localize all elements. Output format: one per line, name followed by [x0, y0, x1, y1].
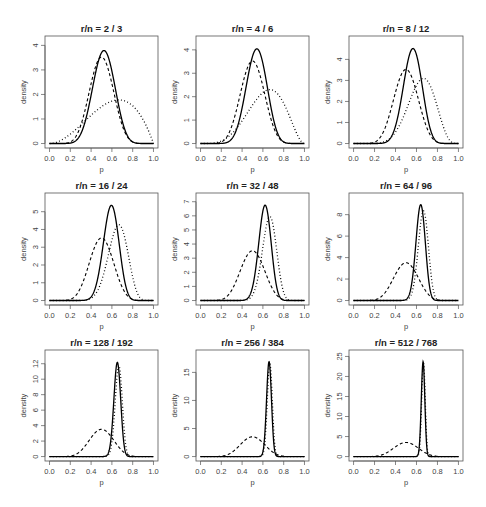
x-tick-label: 0.8: [127, 467, 137, 476]
x-tick-label: 0.2: [216, 154, 226, 163]
plot-frame: [349, 350, 463, 461]
plot-frame: [196, 36, 309, 148]
prior-curve-dashed: [354, 263, 459, 301]
likelihood-curve-dotted: [201, 363, 305, 456]
y-tick-label: 15: [182, 368, 191, 376]
likelihood-curve-dotted: [354, 211, 459, 301]
y-axis-label: density: [170, 80, 179, 104]
prior-curve-dashed: [354, 442, 459, 456]
y-tick-label: 0: [31, 141, 40, 145]
panel-title: r/n = 64 / 96: [380, 180, 432, 191]
x-axis-label: p: [250, 322, 254, 331]
y-tick-label: 5: [31, 210, 40, 214]
y-tick-label: 0: [335, 141, 344, 145]
density-panel: r/n = 4 / 60.00.20.40.60.81.0p01234densi…: [170, 23, 310, 174]
x-axis-label: p: [404, 165, 408, 174]
posterior-curve-solid: [50, 51, 154, 144]
plot-frame: [349, 193, 463, 305]
y-tick-label: 7: [182, 200, 191, 204]
x-tick-label: 0.2: [65, 467, 75, 476]
y-tick-label: 8: [335, 213, 344, 217]
y-tick-label: 4: [182, 48, 191, 52]
x-tick-label: 0.8: [127, 154, 137, 163]
likelihood-curve-dotted: [50, 225, 154, 301]
x-tick-label: 0.8: [278, 154, 288, 163]
x-tick-label: 0.4: [86, 311, 96, 320]
y-axis-label: density: [19, 237, 28, 261]
x-tick-label: 0.8: [278, 467, 288, 476]
x-tick-label: 0.6: [258, 467, 268, 476]
plot-frame: [45, 193, 158, 305]
y-tick-label: 4: [31, 424, 40, 428]
y-tick-label: 0: [31, 298, 40, 302]
x-tick-label: 0.4: [390, 154, 400, 163]
y-axis-label: density: [323, 393, 332, 417]
prior-curve-dashed: [50, 238, 154, 301]
x-tick-label: 0.8: [432, 467, 442, 476]
posterior-curve-solid: [50, 205, 154, 300]
x-tick-label: 0.4: [237, 467, 247, 476]
x-tick-label: 0.0: [195, 467, 205, 476]
x-axis-label: p: [404, 478, 408, 487]
x-tick-label: 0.2: [216, 311, 226, 320]
panel-title: r/n = 2 / 3: [81, 23, 122, 34]
density-panel: r/n = 512 / 7680.00.20.40.60.81.0p051015…: [323, 337, 464, 487]
y-tick-label: 6: [335, 234, 344, 238]
y-tick-label: 2: [182, 270, 191, 274]
x-tick-label: 0.2: [369, 154, 379, 163]
density-plot-grid: r/n = 2 / 30.00.20.40.60.81.0p01234densi…: [0, 0, 486, 507]
x-tick-label: 1.0: [148, 311, 158, 320]
prior-curve-dashed: [201, 437, 305, 457]
y-tick-label: 6: [182, 214, 191, 218]
y-tick-label: 4: [182, 242, 191, 246]
y-axis-label: density: [19, 80, 28, 104]
x-tick-label: 0.0: [44, 311, 54, 320]
x-tick-label: 0.4: [237, 311, 247, 320]
y-tick-label: 5: [182, 228, 191, 232]
y-tick-label: 3: [335, 78, 344, 82]
density-panel: r/n = 32 / 480.00.20.40.60.81.0p01234567…: [170, 180, 310, 331]
posterior-curve-solid: [50, 362, 154, 456]
x-tick-label: 1.0: [299, 311, 309, 320]
posterior-curve-solid: [354, 205, 459, 301]
x-axis-label: p: [99, 165, 103, 174]
y-axis-label: density: [170, 237, 179, 261]
x-tick-label: 0.2: [369, 311, 379, 320]
x-tick-label: 0.2: [65, 311, 75, 320]
prior-curve-dashed: [354, 69, 459, 143]
density-panel: r/n = 64 / 960.00.20.40.60.81.0p02468den…: [323, 180, 464, 331]
prior-curve-dashed: [201, 61, 305, 144]
posterior-curve-solid: [201, 205, 305, 300]
x-tick-label: 1.0: [299, 467, 309, 476]
density-panel: r/n = 8 / 120.00.20.40.60.81.0p01234dens…: [323, 23, 464, 174]
x-tick-label: 0.0: [348, 311, 358, 320]
y-tick-label: 4: [335, 57, 344, 61]
x-tick-label: 0.6: [411, 154, 421, 163]
y-tick-label: 0: [335, 298, 344, 302]
y-tick-label: 4: [335, 256, 344, 260]
y-tick-label: 10: [182, 396, 191, 404]
y-tick-label: 3: [31, 245, 40, 249]
y-tick-label: 1: [335, 120, 344, 124]
panel-title: r/n = 256 / 384: [221, 337, 284, 348]
posterior-curve-solid: [354, 49, 459, 144]
x-tick-label: 0.6: [411, 311, 421, 320]
prior-curve-dashed: [201, 251, 305, 301]
x-tick-label: 1.0: [148, 467, 158, 476]
y-tick-label: 2: [31, 92, 40, 96]
density-panel: r/n = 128 / 1920.00.20.40.60.81.0p024681…: [19, 337, 159, 487]
y-tick-label: 0: [182, 454, 191, 458]
likelihood-curve-dotted: [50, 100, 154, 144]
x-tick-label: 0.4: [86, 154, 96, 163]
x-axis-label: p: [99, 322, 103, 331]
x-tick-label: 1.0: [148, 154, 158, 163]
likelihood-curve-dotted: [201, 90, 305, 144]
x-tick-label: 0.2: [369, 467, 379, 476]
x-tick-label: 0.0: [348, 154, 358, 163]
x-tick-label: 0.6: [258, 311, 268, 320]
y-tick-label: 2: [335, 99, 344, 103]
prior-curve-dashed: [50, 57, 154, 143]
x-tick-label: 0.6: [107, 467, 117, 476]
y-tick-label: 2: [335, 277, 344, 281]
likelihood-curve-dotted: [50, 366, 154, 457]
